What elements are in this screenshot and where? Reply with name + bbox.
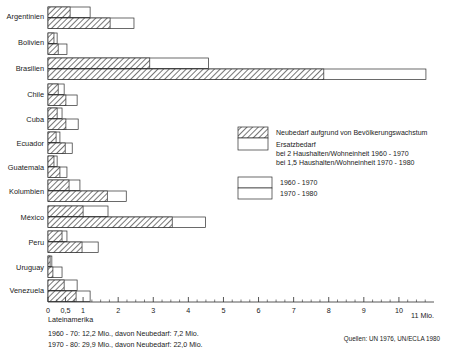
bar-segment-neubedarf-bolivien-2: [48, 44, 58, 55]
axis-tick-label-7: 7: [292, 306, 296, 315]
bar-segment-neubedarf-ecuador-2: [48, 143, 65, 154]
bar-segment-neubedarf-brasilien-1: [48, 58, 150, 69]
bar-m-xico-series-2: [48, 217, 206, 228]
bar-segment-neubedarf-guatemala-1: [48, 156, 54, 167]
axis-tick-label-4: 4: [186, 306, 190, 315]
legend-label-ersatzbedarf: Ersatzbedarf: [276, 141, 316, 148]
source-label: Quellen: UN 1976, UN/ECLA 1980: [344, 335, 441, 343]
bar-ecuador-series-1: [48, 132, 60, 143]
legend-swatch-white: [238, 138, 268, 150]
axis-tick-label-2: 2: [116, 306, 120, 315]
note-line-1970-80: 1970 - 80: 29,9 Mio., davon Neubedarf: 2…: [48, 341, 203, 349]
footer: Lateinamerika 1960 - 70: 12,2 Mio., davo…: [48, 315, 440, 349]
category-label-chile: Chile: [27, 90, 44, 99]
category-label-cuba: Cuba: [26, 115, 45, 124]
bar-segment-neubedarf-uruguay-2: [48, 267, 53, 278]
category-label-argentinien: Argentinien: [7, 12, 44, 21]
bar-guatemala-series-2: [48, 167, 67, 178]
bar-uruguay-series-2: [48, 267, 62, 278]
note-line-1960-70: 1960 - 70: 12,2 Mio., davon Neubedarf: 7…: [48, 330, 199, 338]
legend-label-ersatzbedarf-sub2: bei 1,5 Haushalten/Wohneinheit 1970 - 19…: [276, 159, 415, 166]
bar-peru-series-1: [48, 231, 67, 242]
bar-guatemala-series-1: [48, 156, 57, 167]
bar-brasilien-series-1: [48, 58, 208, 69]
x-axis: 00,512345678910 11 Mio.: [46, 297, 434, 320]
chart-container: Argentinien Bolivien Brasilien Chile Cub…: [0, 0, 457, 352]
bar-segment-neubedarf-chile-2: [48, 95, 66, 106]
bar-segment-neubedarf-kolumbien-2: [48, 191, 107, 202]
category-label-uruguay: Uruguay: [16, 263, 44, 272]
category-label-ecuador: Ecuador: [16, 139, 44, 148]
bar-segment-neubedarf-venezuela-2: [48, 291, 76, 302]
bar-segment-neubedarf-peru-2: [48, 242, 82, 253]
bar-m-xico-series-1: [48, 206, 108, 217]
axis-tick-label-9: 9: [362, 306, 366, 315]
legend-label-period-1960-1970: 1960 - 1970: [280, 179, 317, 186]
bar-brasilien-series-2: [48, 69, 426, 80]
axis-tick-labels: 00,512345678910: [46, 306, 403, 315]
category-label-peru: Peru: [28, 238, 44, 247]
bar-cuba-series-2: [48, 119, 78, 130]
bar-venezuela-series-2: [48, 291, 90, 302]
legend-label-ersatzbedarf-sub1: bei 2 Haushalten/Wohneinheit 1960 - 1970: [276, 150, 409, 157]
bar-argentinien-series-1: [48, 7, 90, 18]
bar-segment-neubedarf-venezuela-1: [48, 280, 64, 291]
axis-unit-label: 11 Mio.: [411, 311, 434, 320]
axis-ticks: [48, 297, 425, 302]
category-labels: Argentinien Bolivien Brasilien Chile Cub…: [7, 12, 45, 295]
bar-segment-neubedarf-brasilien-2: [48, 69, 324, 80]
bar-segment-neubedarf-cuba-1: [48, 108, 57, 119]
bar-venezuela-series-1: [48, 280, 77, 291]
category-label-bolivien: Bolivien: [18, 38, 44, 47]
category-label-brasilien: Brasilien: [16, 64, 44, 73]
bar-segment-neubedarf-bolivien-1: [48, 33, 54, 44]
bar-segment-neubedarf-peru-1: [48, 231, 62, 242]
bar-peru-series-2: [48, 242, 98, 253]
axis-tick-label-1: 1: [81, 306, 85, 315]
axis-tick-label-3: 3: [151, 306, 155, 315]
bar-cuba-series-1: [48, 108, 62, 119]
bar-segment-neubedarf-m-xico-2: [48, 217, 172, 228]
legend-label-neubedarf: Neubedarf aufgrund von Bevölkerungswachs…: [276, 129, 428, 137]
bar-segment-neubedarf-m-xico-1: [48, 206, 83, 217]
bar-segment-neubedarf-argentinien-1: [48, 7, 70, 18]
axis-tick-label-6: 6: [257, 306, 261, 315]
bar-segment-neubedarf-kolumbien-1: [48, 180, 69, 191]
bar-segment-neubedarf-chile-1: [48, 84, 58, 95]
bar-chile-series-1: [48, 84, 64, 95]
bar-kolumbien-series-2: [48, 191, 126, 202]
bar-chile-series-2: [48, 95, 77, 106]
axis-tick-label-0-5: 0,5: [61, 306, 71, 315]
legend-swatch-period-bottom: [238, 188, 272, 199]
bar-uruguay-series-1: [48, 256, 52, 267]
bar-chart-svg: Argentinien Bolivien Brasilien Chile Cub…: [0, 0, 457, 352]
axis-tick-label-0: 0: [46, 306, 50, 315]
legend-swatch-hatched: [238, 127, 268, 138]
axis-tick-label-5: 5: [221, 306, 225, 315]
axis-tick-label-8: 8: [327, 306, 331, 315]
legend: Neubedarf aufgrund von Bevölkerungswachs…: [238, 127, 428, 199]
region-label: Lateinamerika: [48, 315, 93, 324]
category-label-mexico: México: [21, 213, 44, 222]
bar-segment-neubedarf-cuba-2: [48, 119, 66, 130]
bar-segment-neubedarf-ecuador-1: [48, 132, 56, 143]
bar-segment-neubedarf-uruguay-1: [48, 256, 50, 267]
bar-argentinien-series-2: [48, 18, 134, 29]
legend-label-period-1970-1980: 1970 - 1980: [280, 190, 317, 197]
bar-ecuador-series-2: [48, 143, 72, 154]
legend-swatch-period-top: [238, 177, 272, 188]
category-label-venezuela: Venezuela: [9, 286, 44, 295]
bar-bolivien-series-2: [48, 44, 67, 55]
bar-kolumbien-series-1: [48, 180, 80, 191]
bar-bolivien-series-1: [48, 33, 57, 44]
bar-segment-neubedarf-guatemala-2: [48, 167, 60, 178]
bar-segment-neubedarf-argentinien-2: [48, 18, 110, 29]
axis-tick-label-10: 10: [395, 306, 403, 315]
category-label-guatemala: Guatemala: [8, 163, 45, 172]
category-label-kolumbien: Kolumbien: [9, 187, 44, 196]
